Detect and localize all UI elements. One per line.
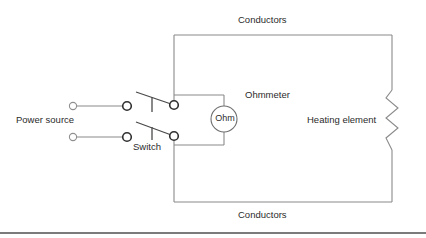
switch-terminal-lower[interactable] xyxy=(170,132,179,141)
resistor-zigzag xyxy=(386,90,398,150)
circuit-diagram: Conductors Conductors Power source Switc… xyxy=(0,0,426,238)
label-heating-element: Heating element xyxy=(307,114,376,125)
switch-terminal-upper[interactable] xyxy=(170,101,179,110)
power-terminal-lower-outer[interactable] xyxy=(69,133,76,140)
label-power-source: Power source xyxy=(16,114,74,125)
label-conductors-top: Conductors xyxy=(238,14,287,25)
power-terminal-upper-outer[interactable] xyxy=(69,102,76,109)
ohmmeter-symbol-text: Ohm xyxy=(212,113,238,123)
switch-symbol[interactable] xyxy=(136,92,178,140)
switch-blade-upper[interactable] xyxy=(136,92,174,105)
heating-element-symbol xyxy=(386,90,398,150)
switch-blade-lower[interactable] xyxy=(136,122,174,136)
power-terminal-lower-inner[interactable] xyxy=(123,133,132,142)
label-conductors-bottom: Conductors xyxy=(238,209,287,220)
label-ohmmeter: Ohmmeter xyxy=(245,89,290,100)
power-source-symbol xyxy=(69,102,131,142)
label-switch: Switch xyxy=(133,141,161,152)
power-terminal-upper-inner[interactable] xyxy=(123,102,132,111)
